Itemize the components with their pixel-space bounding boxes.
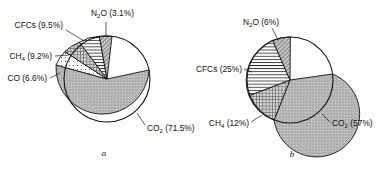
two-pie-chart-figure: N2O (3.1%) CFCs (9.5%) CH4 (9.2%) CO (6.…: [0, 0, 383, 170]
pie-b-label-n2o: N2O (6%): [243, 17, 279, 28]
pie-a-label-co2: CO2 (71.5%): [147, 123, 195, 134]
pie-b-caption: b: [290, 149, 295, 159]
figure-canvas: N2O (3.1%) CFCs (9.5%) CH4 (9.2%) CO (6.…: [0, 0, 383, 170]
pie-b-label-cfcs: CFCs (25%): [196, 64, 242, 74]
pie-a-label-cfcs: CFCs (9.5%): [15, 20, 64, 30]
pie-b-label-co2: CO2 (57%): [332, 118, 373, 129]
pie-a-caption: a: [102, 148, 107, 158]
pie-b-label-ch4: CH4 (12%): [209, 118, 249, 129]
pie-a-label-co: CO (6.6%): [7, 73, 47, 83]
pie-a-label-ch4: CH4 (9.2%): [10, 51, 53, 62]
